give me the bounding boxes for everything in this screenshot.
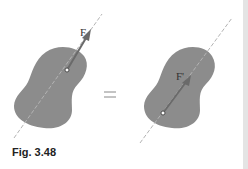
page-edge-strip xyxy=(243,0,248,169)
right-body-shape xyxy=(144,47,215,128)
left-body-shape xyxy=(14,47,87,128)
figure-caption: Fig. 3.48 xyxy=(12,146,56,158)
right-rigid-body xyxy=(140,18,232,143)
equals-sign xyxy=(104,92,116,97)
left-force-label: F xyxy=(80,26,86,38)
right-application-point xyxy=(161,111,165,115)
left-rigid-body xyxy=(14,14,102,138)
principle-of-transmissibility-diagram xyxy=(0,0,248,169)
left-application-point xyxy=(65,68,69,72)
right-force-label: F' xyxy=(176,70,184,82)
